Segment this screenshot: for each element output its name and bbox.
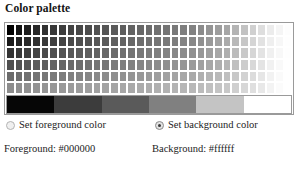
color-swatch[interactable] <box>101 71 110 83</box>
color-swatch[interactable] <box>275 82 284 94</box>
color-swatch[interactable] <box>197 82 206 94</box>
color-swatch[interactable] <box>162 82 171 94</box>
gradient-band[interactable] <box>7 96 54 113</box>
color-swatch[interactable] <box>205 82 214 94</box>
color-swatch[interactable] <box>257 47 266 59</box>
color-swatch[interactable] <box>23 36 32 48</box>
color-swatch[interactable] <box>223 82 232 94</box>
color-swatch[interactable] <box>110 82 119 94</box>
color-swatch[interactable] <box>6 82 15 94</box>
color-swatch[interactable] <box>32 47 41 59</box>
color-swatch[interactable] <box>223 47 232 59</box>
color-palette-box[interactable] <box>4 22 294 115</box>
color-swatch[interactable] <box>127 36 136 48</box>
color-swatch[interactable] <box>284 47 293 59</box>
color-swatch[interactable] <box>275 59 284 71</box>
color-swatch[interactable] <box>171 36 180 48</box>
color-swatch[interactable] <box>136 71 145 83</box>
color-swatch[interactable] <box>205 71 214 83</box>
color-swatch[interactable] <box>231 47 240 59</box>
color-swatch[interactable] <box>136 36 145 48</box>
color-swatch[interactable] <box>266 24 275 36</box>
color-swatch[interactable] <box>58 59 67 71</box>
color-swatch[interactable] <box>214 71 223 83</box>
color-swatch[interactable] <box>67 71 76 83</box>
color-swatch[interactable] <box>188 82 197 94</box>
color-swatch[interactable] <box>15 36 24 48</box>
color-swatch[interactable] <box>101 82 110 94</box>
color-swatch[interactable] <box>179 47 188 59</box>
color-swatch[interactable] <box>84 36 93 48</box>
color-swatch[interactable] <box>84 47 93 59</box>
color-swatch[interactable] <box>110 71 119 83</box>
color-swatch[interactable] <box>266 82 275 94</box>
color-swatch[interactable] <box>67 82 76 94</box>
color-swatch[interactable] <box>231 82 240 94</box>
color-swatch[interactable] <box>6 36 15 48</box>
color-swatch[interactable] <box>75 59 84 71</box>
color-swatch[interactable] <box>257 24 266 36</box>
color-swatch[interactable] <box>257 82 266 94</box>
color-swatch[interactable] <box>240 71 249 83</box>
color-swatch[interactable] <box>284 71 293 83</box>
color-swatch[interactable] <box>162 71 171 83</box>
gradient-band[interactable] <box>102 96 149 113</box>
color-swatch[interactable] <box>49 59 58 71</box>
color-swatch[interactable] <box>223 71 232 83</box>
color-swatch[interactable] <box>41 36 50 48</box>
color-swatch[interactable] <box>162 24 171 36</box>
gradient-band[interactable] <box>149 96 196 113</box>
color-swatch[interactable] <box>67 59 76 71</box>
color-swatch[interactable] <box>214 47 223 59</box>
color-swatch[interactable] <box>84 71 93 83</box>
color-swatch[interactable] <box>101 59 110 71</box>
color-swatch[interactable] <box>231 24 240 36</box>
color-swatch[interactable] <box>153 59 162 71</box>
color-swatch[interactable] <box>162 59 171 71</box>
color-swatch[interactable] <box>179 71 188 83</box>
color-swatch[interactable] <box>101 24 110 36</box>
color-swatch[interactable] <box>249 36 258 48</box>
color-swatch[interactable] <box>41 82 50 94</box>
color-swatch[interactable] <box>84 59 93 71</box>
color-swatch[interactable] <box>6 47 15 59</box>
color-swatch[interactable] <box>266 59 275 71</box>
color-swatch[interactable] <box>145 47 154 59</box>
color-swatch[interactable] <box>67 24 76 36</box>
color-swatch[interactable] <box>136 82 145 94</box>
color-swatch[interactable] <box>58 36 67 48</box>
color-swatch[interactable] <box>93 59 102 71</box>
color-swatch[interactable] <box>23 82 32 94</box>
color-swatch[interactable] <box>119 82 128 94</box>
color-swatch[interactable] <box>119 24 128 36</box>
color-swatch[interactable] <box>145 71 154 83</box>
color-swatch[interactable] <box>162 47 171 59</box>
color-swatch[interactable] <box>136 24 145 36</box>
color-swatch[interactable] <box>127 24 136 36</box>
color-swatch[interactable] <box>284 24 293 36</box>
color-swatch[interactable] <box>171 47 180 59</box>
color-swatch[interactable] <box>197 71 206 83</box>
color-swatch[interactable] <box>32 36 41 48</box>
color-swatch[interactable] <box>93 82 102 94</box>
color-swatch[interactable] <box>197 59 206 71</box>
gradient-band[interactable] <box>244 96 291 113</box>
color-swatch[interactable] <box>15 59 24 71</box>
color-swatch[interactable] <box>171 24 180 36</box>
color-swatch[interactable] <box>240 36 249 48</box>
color-swatch[interactable] <box>119 59 128 71</box>
color-swatch[interactable] <box>249 24 258 36</box>
color-swatch[interactable] <box>223 24 232 36</box>
radio-option-set-foreground-color[interactable]: Set foreground color <box>6 119 106 131</box>
color-swatch[interactable] <box>214 82 223 94</box>
color-swatch[interactable] <box>110 47 119 59</box>
color-swatch[interactable] <box>179 59 188 71</box>
color-swatch[interactable] <box>110 24 119 36</box>
color-swatch[interactable] <box>179 82 188 94</box>
color-swatch[interactable] <box>275 71 284 83</box>
radio-icon-background[interactable] <box>155 121 164 130</box>
color-swatch[interactable] <box>127 47 136 59</box>
color-swatch[interactable] <box>32 71 41 83</box>
color-swatch[interactable] <box>75 36 84 48</box>
color-swatch[interactable] <box>23 59 32 71</box>
